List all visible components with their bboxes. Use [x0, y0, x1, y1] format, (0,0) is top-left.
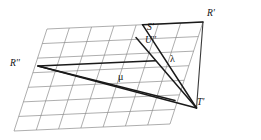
- label-mu: μ: [118, 72, 123, 82]
- label-R-double-prime: R'': [10, 59, 20, 69]
- label-lambda: λ: [170, 54, 175, 64]
- figure-svg: [0, 0, 261, 140]
- geometric-figure-canvas: R' S' U'' R'' T' λ μ: [0, 0, 261, 140]
- label-U-double-prime: U'': [145, 36, 156, 46]
- grid-corrected: [0, 0, 261, 140]
- label-T-prime: T': [197, 98, 204, 108]
- label-R-prime: R': [207, 9, 215, 19]
- label-S-prime: S': [147, 23, 154, 33]
- canvas-bg-2: [0, 0, 261, 140]
